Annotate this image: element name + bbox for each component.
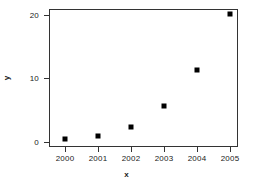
x-tick-label-2004: 2004 [188, 154, 207, 163]
x-tick-label-2005: 2005 [221, 154, 240, 163]
y-tick-label-0: 0 [34, 138, 39, 147]
data-point [129, 124, 134, 129]
x-tick-label-2003: 2003 [155, 154, 174, 163]
x-axis-title: x [0, 170, 253, 179]
y-tick-label-10: 10 [30, 74, 39, 83]
y-tick-mark-0 [44, 142, 49, 143]
x-tick-mark-2003 [164, 147, 165, 152]
plot-area-frame [49, 9, 238, 147]
data-point [96, 133, 101, 138]
y-tick-label-20: 20 [30, 11, 39, 20]
data-point [228, 11, 233, 16]
data-point [162, 104, 167, 109]
x-tick-mark-2004 [197, 147, 198, 152]
x-tick-mark-2005 [230, 147, 231, 152]
x-tick-label-2002: 2002 [122, 154, 141, 163]
y-axis-title: y [2, 76, 11, 80]
y-tick-mark-20 [44, 15, 49, 16]
data-point [63, 136, 68, 141]
scatter-chart-figure: 0 10 20 2000 2001 2002 2003 2004 2005 x … [0, 0, 253, 188]
x-tick-label-2001: 2001 [89, 154, 108, 163]
y-tick-mark-10 [44, 78, 49, 79]
data-point [195, 68, 200, 73]
x-tick-mark-2002 [131, 147, 132, 152]
x-tick-label-2000: 2000 [56, 154, 75, 163]
x-tick-mark-2000 [65, 147, 66, 152]
x-tick-mark-2001 [98, 147, 99, 152]
